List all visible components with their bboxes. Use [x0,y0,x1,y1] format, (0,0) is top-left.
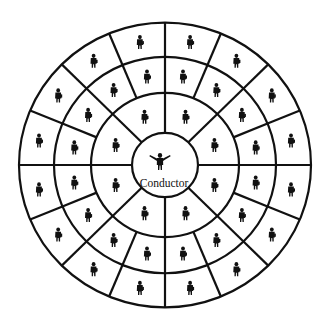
outer-ring-divider [207,265,220,297]
musician-icon [85,208,92,222]
musician-icon [253,176,260,190]
musician-icon [239,108,246,122]
middle-ring-divider [233,193,267,207]
outer-ring-divider [243,64,268,88]
musician-icon [253,140,260,154]
musician-icon [288,182,295,196]
musician-icon [137,281,144,295]
outer-ring-divider [207,33,220,65]
musician-icon [233,54,240,68]
outer-ring-divider [268,206,300,219]
concentric-seating-chart: Conductor [0,0,324,329]
musician-icon [269,88,276,102]
musician-icon [269,228,276,242]
middle-ring-divider [87,216,113,242]
musician-icon [233,262,240,276]
musician-icon [71,140,78,154]
outer-ring-divider [268,111,300,124]
musician-icon [288,134,295,148]
musician-icon [213,233,220,247]
outer-ring-divider [109,33,122,65]
outer-ring-divider [62,64,87,88]
musician-icon [91,262,98,276]
outer-ring-divider [30,206,62,219]
section-dividers [19,23,311,308]
musician-icon [71,176,78,190]
middle-ring-divider [217,216,243,242]
musician-icon [55,88,62,102]
outer-ring-divider [62,242,87,266]
musician-icon [91,54,98,68]
musician-icon [182,206,189,220]
outer-ring-divider [109,265,122,297]
conductor-label: Conductor [140,177,189,189]
middle-ring-divider [233,124,267,138]
middle-ring-divider [62,124,96,138]
orchestra-seating-diagram: Conductor [0,0,324,329]
musician-icon [141,110,148,124]
musician-icon [180,246,187,260]
middle-ring-divider [87,88,113,114]
musician-icon [144,69,151,83]
inner-ring-divider [188,114,217,142]
middle-ring-divider [193,232,207,265]
musician-icon [187,281,194,295]
musician-icon [211,138,218,152]
musician-icon [180,69,187,83]
musician-icon [141,206,148,220]
middle-ring-divider [123,232,137,265]
musician-icon [239,208,246,222]
middle-ring-divider [62,193,96,207]
musician-icon [211,178,218,192]
musician-icon [85,108,92,122]
inner-ring-divider [113,114,142,142]
musician-icon [36,182,43,196]
musician-icon [144,246,151,260]
musician-icon [187,35,194,49]
musician-icon [113,178,120,192]
middle-ring-divider [217,88,243,114]
musician-icon [113,138,120,152]
musician-icon [111,83,118,97]
musician-icon [36,134,43,148]
conductor: Conductor [140,153,189,189]
musician-icon [137,35,144,49]
musician-icon [111,233,118,247]
middle-ring-divider [193,65,207,98]
conductor-figure-icon [149,153,170,170]
musician-icon [213,83,220,97]
outer-ring-divider [30,111,62,124]
musician-icon [182,110,189,124]
middle-ring-divider [123,65,137,98]
musician-icon [55,228,62,242]
outer-ring-divider [243,242,268,266]
